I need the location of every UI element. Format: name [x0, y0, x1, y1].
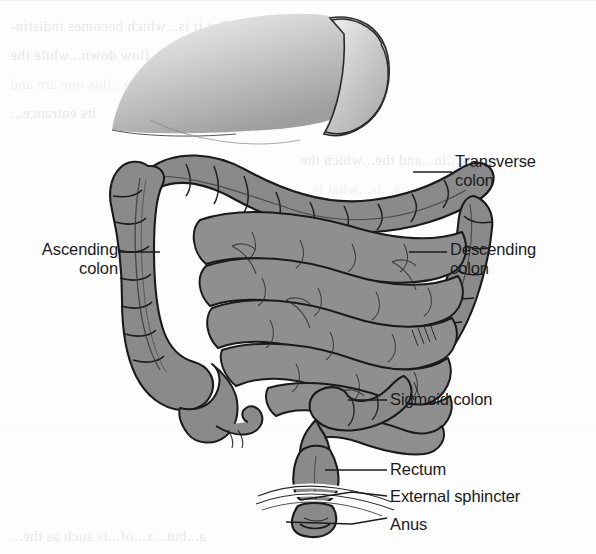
label-external-sphincter: External sphincter: [390, 487, 520, 506]
label-sigmoid-colon: Sigmoid colon: [390, 390, 492, 409]
stomach-omentum-shape: [112, 14, 389, 144]
label-descending-colon: Descending colon: [450, 240, 536, 278]
label-rectum: Rectum: [390, 460, 446, 479]
scanned-figure-page: as enduring. But it is...which becomes i…: [0, 0, 596, 554]
label-transverse-colon: Transverse colon: [455, 152, 536, 190]
ascending-colon-segment: [110, 162, 213, 411]
anus-segment: [292, 503, 336, 537]
label-ascending-colon: Ascending colon: [0, 240, 118, 278]
label-anus: Anus: [390, 515, 427, 534]
